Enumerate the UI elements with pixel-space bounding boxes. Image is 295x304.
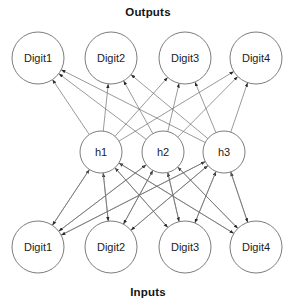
node-in2[interactable]: Digit2 — [85, 221, 137, 273]
edge-h3-out2 — [131, 75, 208, 139]
edge-h1-out1 — [52, 80, 89, 135]
node-out1[interactable]: Digit1 — [12, 32, 64, 84]
edge-h3-in4 — [231, 172, 248, 222]
node-out3[interactable]: Digit3 — [159, 32, 211, 84]
node-label-h2: h2 — [157, 146, 169, 158]
node-label-h1: h1 — [95, 146, 107, 158]
edge-h3-in2 — [131, 166, 208, 231]
node-label-out2: Digit2 — [97, 52, 125, 64]
node-h1[interactable]: h1 — [80, 131, 122, 173]
edge-h2-out1 — [59, 74, 146, 140]
node-label-out3: Digit3 — [171, 52, 199, 64]
node-label-h3: h3 — [218, 146, 230, 158]
node-label-in1: Digit1 — [24, 241, 52, 253]
edge-h1-in1 — [52, 170, 89, 226]
edge-h3-in3 — [195, 171, 216, 223]
node-out4[interactable]: Digit4 — [230, 32, 282, 84]
node-label-out1: Digit1 — [24, 52, 52, 64]
edge-h3-out3 — [195, 82, 216, 133]
edge-h2-in1 — [59, 165, 147, 232]
node-h2[interactable]: h2 — [142, 131, 184, 173]
node-in1[interactable]: Digit1 — [12, 221, 64, 273]
network-canvas: Digit1Digit2Digit3Digit4h1h2h3Digit1Digi… — [0, 0, 295, 304]
node-label-out4: Digit4 — [242, 52, 270, 64]
outputs-title: Outputs — [125, 6, 170, 18]
inputs-title: Inputs — [130, 286, 166, 298]
node-in4[interactable]: Digit4 — [230, 221, 282, 273]
edge-h2-out4 — [178, 76, 238, 137]
node-out2[interactable]: Digit2 — [85, 32, 137, 84]
node-h3[interactable]: h3 — [203, 131, 245, 173]
node-group: Digit1Digit2Digit3Digit4h1h2h3Digit1Digi… — [12, 32, 282, 273]
node-label-in3: Digit3 — [171, 241, 199, 253]
edge-h3-out4 — [231, 83, 248, 133]
neural-network-diagram: Digit1Digit2Digit3Digit4h1h2h3Digit1Digi… — [0, 0, 295, 304]
node-label-in4: Digit4 — [242, 241, 270, 253]
edge-h2-in4 — [178, 167, 238, 228]
node-in3[interactable]: Digit3 — [159, 221, 211, 273]
edge-h2-in3 — [168, 172, 179, 221]
node-label-in2: Digit2 — [97, 241, 125, 253]
